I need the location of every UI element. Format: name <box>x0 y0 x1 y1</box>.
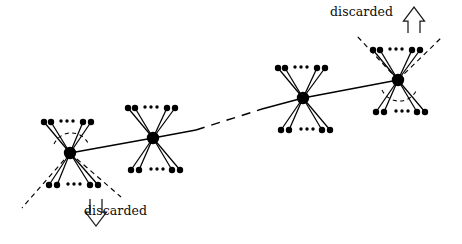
cluster-4 <box>370 47 428 115</box>
diagram-figure <box>0 0 462 244</box>
backbone-chain <box>70 80 398 153</box>
cluster-2 <box>125 105 183 173</box>
cone-right-edge-b <box>398 36 443 80</box>
discarded-label-top: discarded <box>330 4 393 19</box>
backbone-edge-3-4 <box>303 80 398 98</box>
cluster-1-bottom-ellipsis <box>66 182 81 185</box>
cluster-3-top-ellipsis <box>293 65 308 68</box>
cone-left-edge-b <box>70 153 121 197</box>
hub-node-2 <box>147 132 159 144</box>
discarded-label-bottom: discarded <box>84 203 147 218</box>
hub-node-4 <box>392 74 404 86</box>
arrow-up-icon <box>404 7 425 33</box>
hub-node-1 <box>64 147 76 159</box>
backbone-edge-1-2 <box>70 138 153 153</box>
cluster-4-bottom-ellipsis <box>394 109 409 112</box>
backbone-edge-2-3-dashed <box>196 109 262 130</box>
backbone-edge-2-3-head <box>153 130 196 138</box>
diagram-canvas: discarded discarded <box>0 0 462 244</box>
cluster-1 <box>41 119 101 188</box>
discard-cone-right <box>357 36 443 80</box>
cluster-2-top-ellipsis <box>143 105 158 108</box>
cluster-2-bottom-ellipsis <box>149 167 164 170</box>
discard-cone-left <box>22 153 121 208</box>
cluster-3 <box>275 65 333 133</box>
cone-left-edge-a <box>22 153 70 208</box>
hub-node-3 <box>297 92 309 104</box>
cluster-4-top-ellipsis <box>388 47 403 50</box>
cluster-3-bottom-ellipsis <box>299 127 314 130</box>
cluster-1-top-ellipsis <box>59 119 74 122</box>
